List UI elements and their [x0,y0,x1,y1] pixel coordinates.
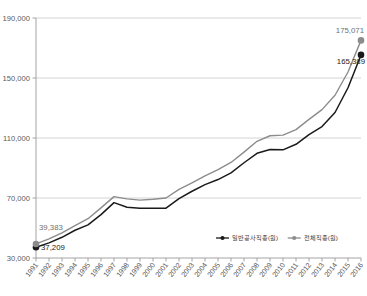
x-axis-tick-label: 2000 [140,261,157,279]
x-axis-tick-label: 2014 [322,261,339,279]
data-label-start-primary: 37,209 [41,243,65,252]
x-axis-tick-label: 2006 [218,261,235,279]
y-axis-tick-label: 70,000 [7,194,30,203]
series-layer [36,40,361,247]
x-axis-tick-label: 2011 [283,261,300,279]
data-point-marker [358,37,365,44]
y-axis-tick-label: 150,000 [3,74,30,83]
chart-plot-area: 30,00070,000110,000150,000190,000 199119… [0,0,367,296]
legend-item[interactable]: 일반공사직종(원) [216,234,278,242]
x-axis-tick-label: 1996 [88,261,105,279]
x-axis-tick-label: 2007 [231,261,248,279]
x-axis-tick-label: 2001 [153,261,170,279]
data-point-marker [33,241,40,248]
x-axis-tick-label: 2008 [244,261,261,279]
x-axis-tick-label: 2002 [166,261,183,279]
y-axis-tick-label: 110,000 [3,134,30,143]
data-point-markers [33,37,365,250]
x-axis: 1991199219931994199519961997199819992000… [23,258,365,279]
legend-item[interactable]: 전체직종(원) [288,234,338,242]
x-axis-tick-label: 2010 [270,261,287,279]
data-label-end-primary: 165,389 [337,57,365,66]
series-line [36,40,361,244]
y-axis-tick-label: 30,000 [7,254,30,263]
x-axis-tick-label: 2013 [309,261,326,279]
x-axis-tick-label: 1995 [75,261,92,279]
x-axis-tick-label: 2012 [296,261,313,279]
x-axis-tick-label: 1997 [101,261,118,279]
legend-label: 일반공사직종(원) [232,234,278,242]
y-axis: 30,00070,000110,000150,000190,000 [3,14,36,263]
x-axis-tick-label: 2015 [335,261,352,279]
x-axis-tick-label: 2004 [192,261,209,279]
x-axis-tick-label: 1994 [62,261,79,279]
legend-marker-swatch [220,236,224,240]
x-axis-tick-label: 2009 [257,261,274,279]
series-line [36,55,361,247]
x-axis-tick-label: 1993 [49,261,66,279]
data-label-end-secondary: 175,071 [336,26,364,35]
gridlines [36,18,361,198]
x-axis-tick-label: 2016 [348,261,365,279]
x-axis-tick-label: 2003 [179,261,196,279]
legend-marker-swatch [292,236,296,240]
line-chart: 30,00070,000110,000150,000190,000 199119… [0,0,367,296]
x-axis-tick-label: 1999 [127,261,144,279]
x-axis-tick-label: 2005 [205,261,222,279]
legend-label: 전체직종(원) [304,234,338,242]
x-axis-tick-label: 1992 [36,261,53,279]
chart-legend[interactable]: 일반공사직종(원)전체직종(원) [216,234,338,242]
x-axis-tick-label: 1991 [23,261,40,279]
x-axis-tick-label: 1998 [114,261,131,279]
y-axis-tick-label: 190,000 [3,14,30,23]
data-label-start-secondary: 39,383 [39,223,63,232]
